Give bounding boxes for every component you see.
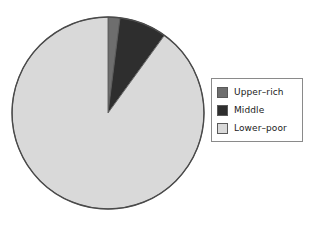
legend-label-middle: Middle [234,105,264,116]
legend-label-lower-poor: Lower–poor [234,123,287,134]
legend-swatch-lower-poor [217,123,228,134]
legend-swatch-upper-rich [217,87,228,98]
pie-slice-lower-poor[interactable] [12,17,204,209]
legend-item-lower-poor[interactable]: Lower–poor [217,119,299,137]
pie-slices-group [12,17,204,209]
legend-swatch-middle [217,105,228,116]
pie-svg [10,14,206,212]
legend-item-middle[interactable]: Middle [217,101,299,119]
legend-label-upper-rich: Upper–rich [234,87,284,98]
pie-chart-figure: Upper–rich Middle Lower–poor [0,0,314,225]
pie-plot-area [10,14,206,212]
legend-item-list: Upper–rich Middle Lower–poor [217,83,299,137]
chart-legend: Upper–rich Middle Lower–poor [211,78,303,142]
legend-item-upper-rich[interactable]: Upper–rich [217,83,299,101]
